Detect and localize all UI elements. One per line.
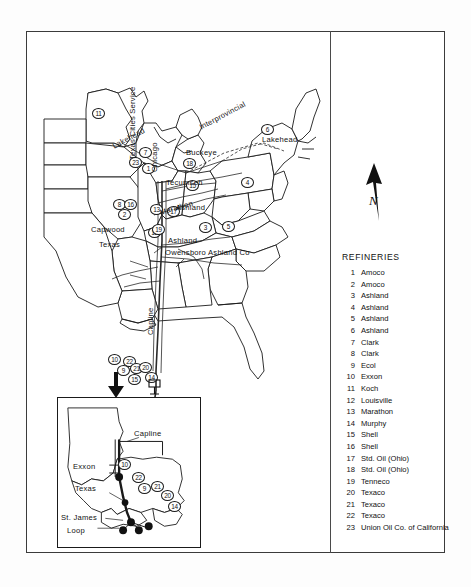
legend-row-name: Texaco — [361, 511, 385, 520]
legend-row-number: 8 — [342, 349, 355, 358]
legend-row-name: Ashland — [361, 291, 388, 300]
legend-row-name: Ecol — [361, 361, 376, 370]
refinery-marker-20: 20 — [161, 490, 174, 501]
legend-row-number: 23 — [342, 523, 355, 532]
legend-row-number: 22 — [342, 511, 355, 520]
legend-row-number: 6 — [342, 326, 355, 335]
legend-row-number: 14 — [342, 419, 355, 428]
legend-row-number: 17 — [342, 454, 355, 463]
legend-row: 19Tenneco — [342, 477, 442, 486]
legend-title: REFINERIES — [342, 252, 442, 262]
legend-row: 7Clark — [342, 338, 442, 347]
map-label-texas: Texas — [99, 240, 120, 249]
inset-label-loop: Loop — [67, 526, 85, 535]
figure-page: 116723118154178162133125191022921201415 … — [0, 0, 471, 587]
inset-label-exxon: Exxon — [73, 462, 95, 471]
legend-row: 18Std. Oil (Ohio) — [342, 465, 442, 474]
legend-row: 15Shell — [342, 430, 442, 439]
legend-row: 22Texaco — [342, 511, 442, 520]
inset-label-capline: Capline — [134, 429, 162, 438]
legend-row-name: Amoco — [361, 280, 385, 289]
louisiana-inset: Capline Exxon Texas St. James Loop 10229… — [57, 397, 201, 548]
refinery-marker-10: 10 — [118, 459, 131, 470]
legend-row-name: Amoco — [361, 268, 385, 277]
north-arrow-icon: N — [360, 155, 394, 233]
legend-row-number: 9 — [342, 361, 355, 370]
legend-row: 14Murphy — [342, 419, 442, 428]
legend-row-number: 11 — [342, 384, 355, 393]
refinery-marker-21: 21 — [151, 481, 164, 492]
legend-row-name: Koch — [361, 384, 378, 393]
refinery-marker-10: 10 — [108, 354, 121, 365]
inset-key-box-icon — [145, 378, 165, 396]
legend-row: 5Ashland — [342, 314, 442, 323]
legend-row: 2Amoco — [342, 280, 442, 289]
legend-row-name: Louisville — [361, 396, 392, 405]
legend-row-number: 15 — [342, 430, 355, 439]
legend-row: 10Exxon — [342, 372, 442, 381]
legend-row-number: 1 — [342, 268, 355, 277]
legend-row-name: Exxon — [361, 372, 382, 381]
legend-row-name: Union Oil Co. of California — [361, 523, 449, 532]
refinery-marker-15: 15 — [128, 374, 141, 385]
legend-row: 4Ashland — [342, 303, 442, 312]
legend-row-number: 13 — [342, 407, 355, 416]
refinery-marker-6: 6 — [261, 124, 274, 135]
legend-row-name: Shell — [361, 442, 378, 451]
inset-label-st-james: St. James — [61, 513, 97, 522]
legend-row-number: 12 — [342, 396, 355, 405]
refinery-marker-5: 5 — [222, 221, 235, 232]
legend-row-number: 5 — [342, 314, 355, 323]
refinery-marker-22: 22 — [132, 472, 145, 483]
legend-row-name: Texaco — [361, 500, 385, 509]
map-label-lakehead-east: Lakehead — [262, 135, 297, 144]
refinery-marker-2: 2 — [118, 209, 131, 220]
legend-row: 16Shell — [342, 442, 442, 451]
refineries-legend: REFINERIES 1Amoco2Amoco3Ashland4Ashland5… — [342, 252, 442, 535]
map-label-owensboro: Owensboro Ashland Co — [165, 248, 250, 257]
refinery-marker-18: 18 — [183, 158, 196, 169]
legend-row: 20Texaco — [342, 488, 442, 497]
legend-row: 12Louisville — [342, 396, 442, 405]
map-label-ashland-kentucky: Ashland — [168, 236, 197, 245]
legend-row: 11Koch — [342, 384, 442, 393]
legend-row-number: 16 — [342, 442, 355, 451]
louisiana-inset-map — [58, 398, 200, 547]
legend-row-number: 3 — [342, 291, 355, 300]
legend-row: 23Union Oil Co. of California — [342, 523, 442, 532]
map-label-capline: Capline — [146, 307, 155, 335]
map-label-capwood: Capwood — [91, 225, 125, 234]
inset-label-texas: Texas — [75, 484, 96, 493]
refinery-marker-4: 4 — [241, 177, 254, 188]
legend-row-name: Tenneco — [361, 477, 390, 486]
legend-row-number: 2 — [342, 280, 355, 289]
legend-row-name: Shell — [361, 430, 378, 439]
map-label-chicago: Chicago — [150, 142, 159, 172]
legend-row-number: 21 — [342, 500, 355, 509]
refinery-marker-14: 14 — [168, 501, 181, 512]
legend-row-name: Ashland — [361, 314, 388, 323]
refinery-marker-9: 9 — [138, 483, 151, 494]
legend-row-number: 10 — [342, 372, 355, 381]
legend-row-name: Std. Oil (Ohio) — [361, 454, 409, 463]
legend-row: 17Std. Oil (Ohio) — [342, 454, 442, 463]
map-label-tecumseh: Tecumseh — [166, 178, 203, 187]
legend-row: 13Marathon — [342, 407, 442, 416]
refinery-marker-11: 11 — [92, 108, 105, 119]
refinery-marker-19: 19 — [152, 224, 165, 235]
legend-row-number: 18 — [342, 465, 355, 474]
legend-row-name: Clark — [361, 338, 379, 347]
map-label-buckeye: Buckeye — [186, 148, 217, 157]
legend-row-name: Murphy — [361, 419, 386, 428]
refinery-marker-3: 3 — [199, 222, 212, 233]
legend-row: 1Amoco — [342, 268, 442, 277]
legend-list: 1Amoco2Amoco3Ashland4Ashland5Ashland6Ash… — [342, 268, 442, 532]
legend-row-name: Ashland — [361, 303, 388, 312]
legend-row-name: Ashland — [361, 326, 388, 335]
legend-row-name: Clark — [361, 349, 379, 358]
legend-row: 21Texaco — [342, 500, 442, 509]
legend-row-name: Std. Oil (Ohio) — [361, 465, 409, 474]
legend-row-number: 19 — [342, 477, 355, 486]
legend-row-name: Marathon — [361, 407, 393, 416]
inset-pointer-arrow-icon — [105, 372, 127, 398]
